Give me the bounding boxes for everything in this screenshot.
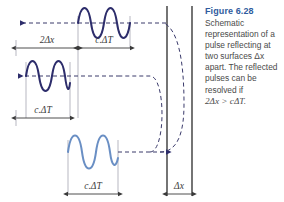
diagram-area: 2Δx c.ΔT c.ΔT c.ΔT Δx — [0, 0, 204, 202]
second-surface-reflection-loop — [160, 23, 184, 152]
dimension-label-two-delta-x: 2Δx — [40, 35, 55, 45]
figure-title: Figure 6.28 — [205, 6, 281, 17]
first-surface-reflection-loop — [120, 76, 162, 152]
wave-path-bottom — [68, 136, 118, 169]
incident-pulse — [68, 136, 118, 169]
dimension-label-delta-x: Δx — [173, 181, 185, 191]
diagram-svg: 2Δx c.ΔT c.ΔT c.ΔT Δx — [0, 0, 204, 202]
dimension-c-delta-t-middle: c.ΔT — [16, 105, 70, 126]
figure-caption: Schematic representation of a pulse refl… — [205, 18, 281, 96]
figure-caption-math: 2Δx > cΔT. — [205, 96, 281, 107]
dimension-label-c-delta-t-bottom: c.ΔT — [84, 181, 102, 191]
figure-root: 2Δx c.ΔT c.ΔT c.ΔT Δx — [0, 0, 284, 202]
dimension-two-delta-x: 2Δx — [16, 35, 78, 56]
surface-lines — [167, 6, 192, 196]
dimension-label-c-delta-t-middle: c.ΔT — [34, 105, 52, 115]
dimension-label-c-delta-t-top: c.ΔT — [95, 35, 113, 45]
caption-area: Figure 6.28 Schematic representation of … — [205, 6, 281, 107]
dimension-delta-x: Δx — [167, 181, 192, 194]
dimension-c-delta-t-bottom: c.ΔT — [68, 181, 118, 194]
reflection-loops — [120, 23, 184, 152]
